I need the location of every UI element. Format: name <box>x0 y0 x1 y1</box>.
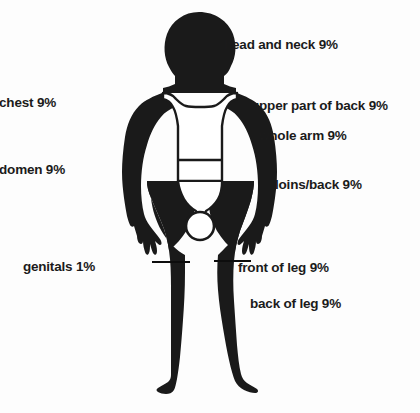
label-upper-part-of-back: upper part of back 9% <box>251 99 388 113</box>
label-genitals: genitals 1% <box>23 260 95 274</box>
label-head-and-neck: head and neck 9% <box>224 38 338 52</box>
torso-outline <box>163 93 237 181</box>
burn-chart-diagram: head and neck 9% chest 9% upper part of … <box>0 0 420 413</box>
genitals-marker-circle <box>186 212 214 240</box>
label-loins-back: loins/back 9% <box>275 178 362 192</box>
label-back-of-leg: back of leg 9% <box>250 297 341 311</box>
head-region <box>163 12 236 93</box>
label-abdomen: abdomen 9% <box>0 163 65 177</box>
label-whole-arm: whole arm 9% <box>259 129 347 143</box>
human-body-silhouette <box>0 0 420 413</box>
label-front-of-leg: front of leg 9% <box>238 261 329 275</box>
label-chest: chest 9% <box>0 96 56 110</box>
knee-divider-lines <box>152 261 251 262</box>
